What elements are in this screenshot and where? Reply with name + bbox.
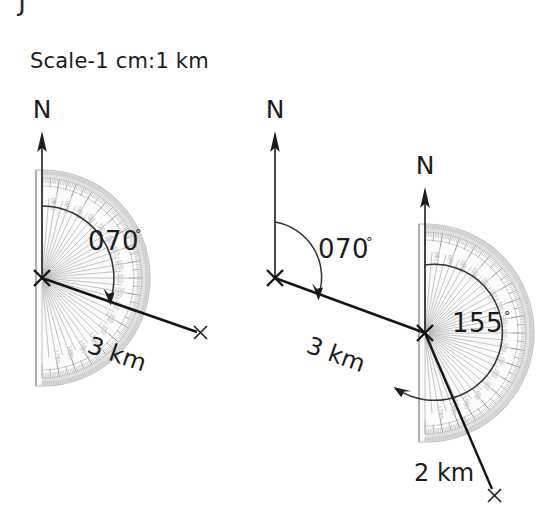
bearing-degree-symbol-left: °: [135, 226, 142, 241]
scale-note: Scale-1 cm:1 km: [30, 49, 209, 73]
bearings-figure: J Scale-1 cm:1 km 1017020160301504014050…: [0, 0, 553, 518]
svg-text:90: 90: [117, 278, 124, 284]
north-label-second: N: [416, 151, 435, 180]
first-bearing-degree-symbol: °: [366, 234, 373, 249]
cutoff-glyph: J: [16, 0, 26, 16]
bearing-label-left: 070: [88, 226, 139, 256]
second-distance-label: 2 km: [414, 459, 474, 487]
north-label-first: N: [266, 95, 285, 124]
second-bearing-degree-symbol: °: [504, 308, 511, 323]
second-bearing-label: 155: [452, 308, 503, 338]
north-label: N: [33, 95, 52, 124]
first-bearing-label: 070: [318, 234, 369, 264]
